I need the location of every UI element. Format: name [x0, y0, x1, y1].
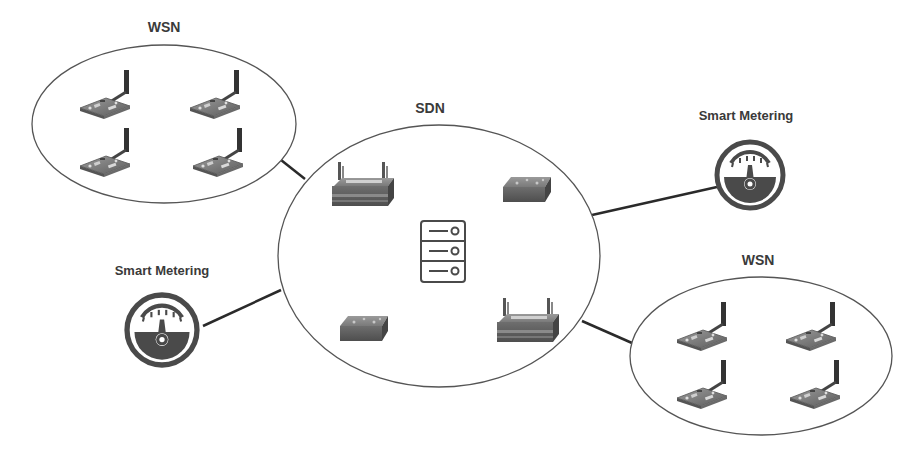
wsn-top-left-label: WSN: [148, 19, 181, 35]
wsn-bottom-right-label: WSN: [742, 252, 775, 268]
link-meter-left-to-sdn: [203, 290, 281, 326]
smart-metering-right-label: Smart Metering: [699, 108, 794, 123]
wsn-cluster-top-left: [32, 45, 296, 203]
sdn-label: SDN: [415, 100, 445, 116]
smart-meter-left: [127, 295, 197, 365]
wsn-boundary-ellipse: [32, 45, 296, 203]
smart-meter-right: [717, 142, 783, 208]
server-icon: [421, 221, 465, 282]
sdn-cluster: [278, 125, 600, 387]
switch-icon: [503, 177, 551, 202]
switch-icon: [340, 316, 388, 341]
wsn-boundary-ellipse: [630, 277, 892, 435]
smart-metering-left-label: Smart Metering: [115, 263, 210, 278]
link-sdn-to-meter-right: [592, 187, 717, 215]
gauge-icon: [717, 142, 783, 208]
wsn-cluster-bottom-right: [630, 277, 892, 435]
link-wsn-top-left-to-sdn: [281, 160, 305, 179]
gauge-icon: [127, 295, 197, 365]
network-diagram: [0, 0, 918, 462]
link-sdn-to-wsn-bottom-right: [582, 321, 632, 343]
